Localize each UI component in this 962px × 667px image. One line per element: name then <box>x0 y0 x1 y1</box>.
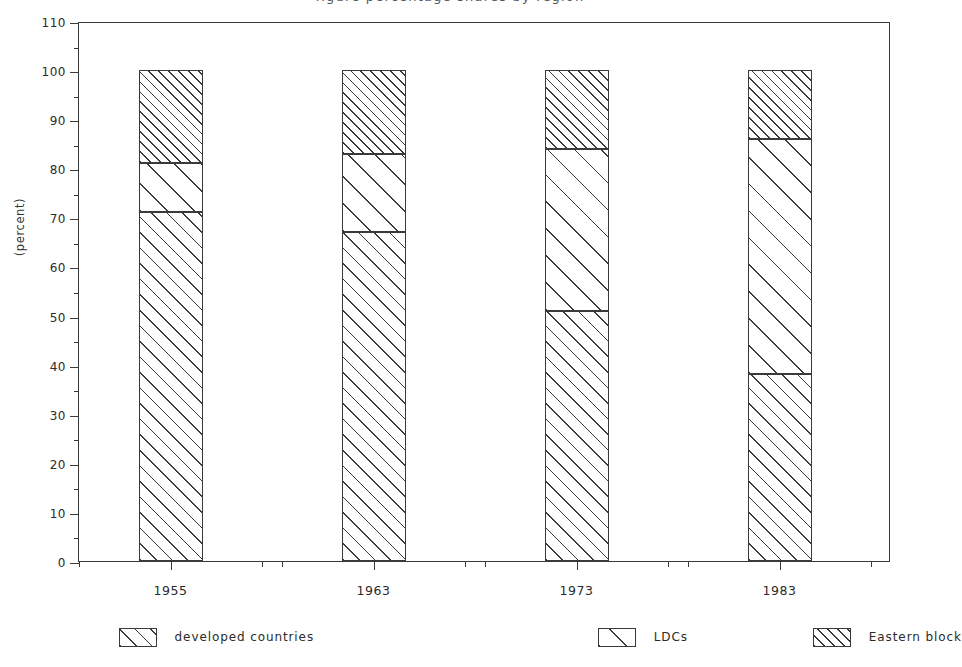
legend-swatch-icon <box>598 628 636 647</box>
bar-segment <box>545 311 609 561</box>
x-tick-minor <box>465 561 466 567</box>
y-tick-minor <box>74 342 79 343</box>
bar-segment <box>342 232 406 561</box>
y-tick-label: 30 <box>50 410 66 422</box>
x-tick <box>374 561 375 570</box>
y-tick-label: 60 <box>50 262 66 274</box>
legend-label: LDCs <box>654 630 688 644</box>
plot-area: 0102030405060708090100110 19551963197319… <box>78 22 890 562</box>
y-tick-label: 10 <box>50 508 66 520</box>
x-tick <box>780 561 781 570</box>
y-tick <box>70 514 79 515</box>
y-tick-label: 50 <box>50 312 66 324</box>
bar-segment <box>748 139 812 375</box>
y-tick-label: 70 <box>50 213 66 225</box>
x-tick-minor <box>485 561 486 567</box>
x-tick-minor <box>262 561 263 567</box>
y-tick <box>70 219 79 220</box>
y-tick-minor <box>74 538 79 539</box>
stacked-bar <box>748 21 812 561</box>
stacked-bar <box>139 21 203 561</box>
legend-swatch-icon <box>119 628 157 647</box>
x-tick-label: 1955 <box>153 583 187 598</box>
y-tick <box>70 23 79 24</box>
x-tick <box>577 561 578 570</box>
y-tick <box>70 563 79 564</box>
x-tick-minor <box>688 561 689 567</box>
bar-segment <box>748 70 812 139</box>
y-tick <box>70 416 79 417</box>
y-tick-label: 90 <box>50 115 66 127</box>
y-tick-minor <box>74 244 79 245</box>
x-tick-minor <box>871 561 872 567</box>
y-tick-minor <box>74 293 79 294</box>
y-tick-minor <box>74 146 79 147</box>
y-tick <box>70 268 79 269</box>
x-tick-minor <box>668 561 669 567</box>
legend-swatch-icon <box>813 628 851 647</box>
y-tick-minor <box>74 391 79 392</box>
x-tick-label: 1963 <box>356 583 390 598</box>
legend-label: Eastern block <box>869 630 962 644</box>
y-axis-label: (percent) <box>13 177 27 277</box>
y-tick-label: 40 <box>50 361 66 373</box>
x-tick-label: 1973 <box>559 583 593 598</box>
y-tick-label: 110 <box>42 17 66 29</box>
x-tick-minor <box>79 561 80 567</box>
y-tick <box>70 121 79 122</box>
y-tick-label: 0 <box>58 557 66 569</box>
y-tick-label: 20 <box>50 459 66 471</box>
legend-item[interactable]: LDCs <box>598 628 688 647</box>
bar-segment <box>342 154 406 233</box>
bar-segment <box>342 70 406 153</box>
bar-segment <box>545 149 609 311</box>
y-tick <box>70 465 79 466</box>
legend-label: developed countries <box>175 630 314 644</box>
x-tick-minor <box>282 561 283 567</box>
bar-segment <box>545 70 609 149</box>
chart-title-cropped: figure percentage shares by region <box>0 0 900 5</box>
legend-item[interactable]: Eastern block <box>813 628 962 647</box>
x-tick-label: 1983 <box>762 583 796 598</box>
y-tick-label: 80 <box>50 164 66 176</box>
y-tick <box>70 170 79 171</box>
bar-segment <box>748 374 812 561</box>
y-tick <box>70 318 79 319</box>
legend: developed countriesLDCsEastern block <box>78 622 890 652</box>
legend-item[interactable]: developed countries <box>119 628 314 647</box>
y-tick <box>70 367 79 368</box>
y-tick-minor <box>74 489 79 490</box>
y-tick <box>70 72 79 73</box>
bar-segment <box>139 212 203 561</box>
bar-segment <box>139 70 203 163</box>
stacked-bar <box>545 21 609 561</box>
y-tick-minor <box>74 97 79 98</box>
y-tick-minor <box>74 48 79 49</box>
y-tick-minor <box>74 440 79 441</box>
bar-segment <box>139 163 203 212</box>
x-tick <box>171 561 172 570</box>
y-tick-label: 100 <box>42 66 66 78</box>
y-tick-minor <box>74 195 79 196</box>
stacked-bar <box>342 21 406 561</box>
